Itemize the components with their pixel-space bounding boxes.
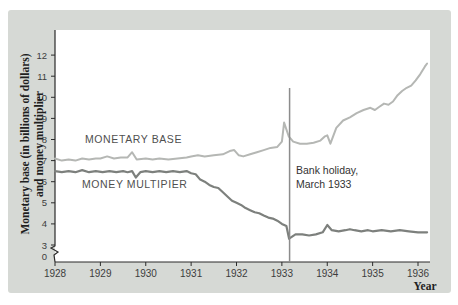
svg-text:1930: 1930 [135, 268, 158, 279]
svg-text:1928: 1928 [44, 268, 67, 279]
x-axis-title: Year [405, 280, 445, 292]
bank-holiday-annotation-line2: March 1933 [296, 177, 358, 191]
bank-holiday-annotation: Bank holiday, March 1933 [296, 163, 358, 191]
svg-text:1934: 1934 [316, 268, 339, 279]
y-axis-title-line2: and money multiplier [32, 18, 46, 270]
money-multiplier-label: MONEY MULTIPIER [82, 178, 187, 190]
y-axis-title: Monetary base (in billions of dollars) a… [18, 18, 46, 270]
y-axis-title-line1: Monetary base (in billions of dollars) [18, 18, 32, 270]
figure: 3456789101112019281929193019311932193319… [0, 0, 458, 305]
svg-text:1935: 1935 [362, 268, 385, 279]
svg-text:1931: 1931 [180, 268, 203, 279]
svg-text:1933: 1933 [271, 268, 294, 279]
chart-svg: 3456789101112019281929193019311932193319… [0, 0, 458, 305]
monetary-base-label: MONETARY BASE [85, 133, 182, 145]
bank-holiday-annotation-line1: Bank holiday, [296, 163, 358, 177]
svg-text:1929: 1929 [89, 268, 112, 279]
svg-text:1936: 1936 [407, 268, 430, 279]
svg-text:1932: 1932 [225, 268, 248, 279]
